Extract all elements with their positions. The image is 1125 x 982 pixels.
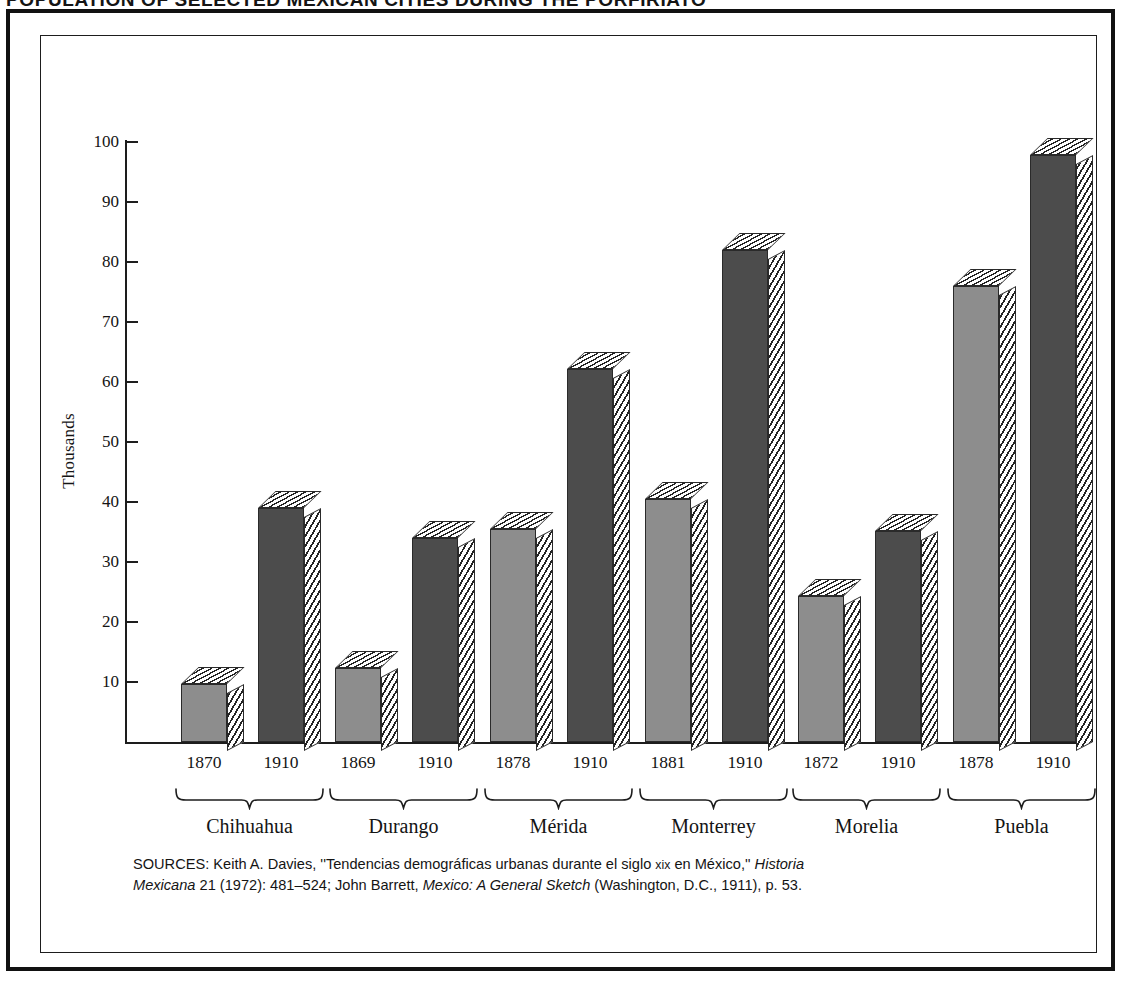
bar-front-face bbox=[875, 531, 921, 742]
sources-book-title: Mexico: A General Sketch bbox=[423, 877, 591, 893]
y-tick-mark bbox=[125, 261, 138, 263]
bar-puebla-1878 bbox=[953, 286, 999, 742]
group-brace bbox=[329, 788, 478, 810]
year-label: 1878 bbox=[496, 752, 531, 773]
x-axis-baseline bbox=[125, 742, 1085, 744]
year-label: 1910 bbox=[418, 752, 453, 773]
page-title: POPULATION OF SELECTED MEXICAN CITIES DU… bbox=[6, 0, 706, 9]
sources-line2-b: (Washington, D.C., 1911), p. 53. bbox=[590, 877, 802, 893]
y-tick-mark bbox=[125, 501, 138, 503]
sources-line1-a: Keith A. Davies, ''Tendencias demográfic… bbox=[209, 856, 655, 872]
y-tick-label: 10 bbox=[79, 672, 119, 692]
bar-side-face bbox=[613, 369, 630, 751]
bar-durango-1869 bbox=[335, 668, 381, 742]
group-label-mérida: Mérida bbox=[530, 815, 588, 838]
bar-front-face bbox=[490, 529, 536, 742]
bar-durango-1910 bbox=[412, 538, 458, 742]
bar-monterrey-1910 bbox=[722, 250, 768, 742]
year-label: 1870 bbox=[187, 752, 222, 773]
y-tick-mark bbox=[125, 321, 138, 323]
bar-side-face bbox=[691, 499, 708, 751]
bar-side-face bbox=[844, 596, 861, 751]
bar-front-face bbox=[335, 668, 381, 742]
bar-front-face bbox=[412, 538, 458, 742]
bar-top-face bbox=[953, 269, 1017, 286]
figure-inner-border: Thousands 102030405060708090100 18701910… bbox=[40, 35, 1097, 953]
y-tick-label: 30 bbox=[79, 552, 119, 572]
bar-side-face bbox=[1076, 155, 1093, 751]
sources-journal-title-cont: Mexicana bbox=[133, 877, 195, 893]
y-tick-label: 60 bbox=[79, 372, 119, 392]
bar-side-face bbox=[768, 250, 785, 751]
figure-outer-border: Thousands 102030405060708090100 18701910… bbox=[6, 9, 1115, 971]
sources-century-smallcaps: xix bbox=[655, 858, 670, 872]
sources-label: SOURCES: bbox=[133, 856, 209, 872]
year-label: 1881 bbox=[651, 752, 686, 773]
bar-top-face bbox=[490, 512, 554, 529]
y-tick-label: 50 bbox=[79, 432, 119, 452]
bar-mérida-1878 bbox=[490, 529, 536, 742]
bar-top-face bbox=[181, 667, 245, 684]
bar-top-face bbox=[258, 491, 322, 508]
group-label-morelia: Morelia bbox=[835, 815, 898, 838]
y-tick-label: 80 bbox=[79, 252, 119, 272]
group-brace bbox=[792, 788, 941, 810]
bar-front-face bbox=[181, 684, 227, 742]
bar-top-face bbox=[875, 514, 939, 531]
bar-front-face bbox=[645, 499, 691, 742]
bar-front-face bbox=[722, 250, 768, 742]
bar-side-face bbox=[381, 668, 398, 751]
y-tick-mark bbox=[125, 441, 138, 443]
bar-top-face bbox=[645, 482, 709, 499]
bar-chihuahua-1870 bbox=[181, 684, 227, 742]
y-tick-label: 100 bbox=[79, 132, 119, 152]
year-label: 1910 bbox=[728, 752, 763, 773]
group-label-monterrey: Monterrey bbox=[671, 815, 755, 838]
chart-plot-area: Thousands 102030405060708090100 18701910… bbox=[41, 36, 1096, 952]
year-label: 1910 bbox=[264, 752, 299, 773]
year-label: 1910 bbox=[881, 752, 916, 773]
y-tick-label: 70 bbox=[79, 312, 119, 332]
group-label-durango: Durango bbox=[369, 815, 439, 838]
y-tick-mark bbox=[125, 681, 138, 683]
bar-chihuahua-1910 bbox=[258, 508, 304, 742]
bar-top-face bbox=[1030, 138, 1094, 155]
year-label: 1910 bbox=[573, 752, 608, 773]
y-tick-mark bbox=[125, 381, 138, 383]
group-brace bbox=[947, 788, 1096, 810]
group-label-chihuahua: Chihuahua bbox=[206, 815, 293, 838]
bar-top-face bbox=[335, 651, 399, 668]
bar-side-face bbox=[458, 538, 475, 751]
sources-note: SOURCES: Keith A. Davies, ''Tendencias d… bbox=[133, 854, 1013, 895]
y-tick-mark bbox=[125, 201, 138, 203]
bar-monterrey-1881 bbox=[645, 499, 691, 742]
y-tick-label: 90 bbox=[79, 192, 119, 212]
year-label: 1910 bbox=[1036, 752, 1071, 773]
bar-front-face bbox=[798, 596, 844, 742]
group-brace bbox=[175, 788, 324, 810]
year-label: 1869 bbox=[341, 752, 376, 773]
bar-puebla-1910 bbox=[1030, 155, 1076, 742]
y-tick-mark bbox=[125, 141, 138, 143]
y-tick-mark bbox=[125, 621, 138, 623]
bar-side-face bbox=[999, 286, 1016, 751]
group-brace bbox=[484, 788, 633, 810]
year-label: 1872 bbox=[804, 752, 839, 773]
bar-side-face bbox=[227, 684, 244, 751]
bar-mérida-1910 bbox=[567, 369, 613, 742]
cropped-title-strip: POPULATION OF SELECTED MEXICAN CITIES DU… bbox=[0, 0, 1125, 9]
y-axis-title: Thousands bbox=[59, 351, 79, 551]
bar-front-face bbox=[1030, 155, 1076, 742]
bar-top-face bbox=[722, 233, 786, 250]
sources-journal-title: Historia bbox=[755, 856, 804, 872]
bar-top-face bbox=[798, 579, 862, 596]
bar-top-face bbox=[567, 352, 631, 369]
bar-front-face bbox=[567, 369, 613, 742]
bar-side-face bbox=[304, 508, 321, 751]
sources-line2-a: 21 (1972): 481–524; John Barrett, bbox=[195, 877, 422, 893]
y-tick-label: 40 bbox=[79, 492, 119, 512]
y-tick-mark bbox=[125, 561, 138, 563]
bar-side-face bbox=[921, 531, 938, 751]
group-label-puebla: Puebla bbox=[994, 815, 1048, 838]
y-tick-label: 20 bbox=[79, 612, 119, 632]
